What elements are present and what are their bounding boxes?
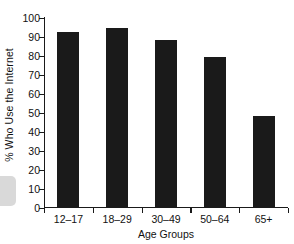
y-tick-label: 40 xyxy=(16,127,40,138)
y-tick-label: 90 xyxy=(16,32,40,43)
x-axis-tick-labels: 12–1718–2930–4950–6465+ xyxy=(44,0,288,244)
x-tick-label: 12–17 xyxy=(54,213,83,225)
y-tick-label: 20 xyxy=(16,165,40,176)
x-tick-label: 65+ xyxy=(255,213,273,225)
y-tick-label: 80 xyxy=(16,51,40,62)
y-axis-tick-labels: 0102030405060708090100 xyxy=(14,0,40,244)
y-tick-label: 70 xyxy=(16,70,40,81)
y-tick-label: 10 xyxy=(16,184,40,195)
y-tick-label: 60 xyxy=(16,89,40,100)
y-tick-label: 50 xyxy=(16,108,40,119)
x-tick-label: 18–29 xyxy=(103,213,132,225)
y-tick-label: 30 xyxy=(16,146,40,157)
x-tick-mark xyxy=(288,208,289,213)
x-tick-label: 50–64 xyxy=(200,213,229,225)
x-axis-title: Age Groups xyxy=(44,228,288,240)
bar-chart-figure: % Who Use the Internet 01020304050607080… xyxy=(0,0,294,244)
x-tick-label: 30–49 xyxy=(151,213,180,225)
y-tick-label: 0 xyxy=(16,203,40,214)
y-tick-label: 100 xyxy=(16,13,40,24)
